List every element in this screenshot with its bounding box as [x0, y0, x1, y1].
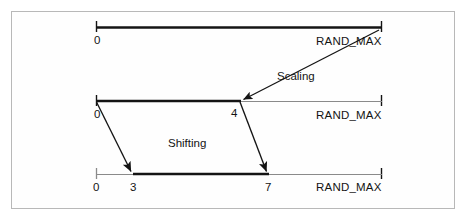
shifting-label: Shifting	[168, 137, 206, 149]
bottom-axis-mid-label-right: 7	[265, 181, 271, 193]
middle-axis-group	[96, 95, 382, 106]
bottom-axis-start-label: 0	[93, 181, 99, 193]
top-axis-start-label: 0	[94, 34, 100, 46]
middle-axis-start-label: 0	[94, 108, 100, 120]
figure-canvas: 0 RAND_MAX Scaling 0 4 RAND_MAX Shifting…	[0, 0, 471, 221]
top-axis-group	[96, 21, 382, 32]
middle-axis-mid-label: 4	[231, 107, 237, 119]
top-axis-end-label: RAND_MAX	[316, 35, 382, 47]
middle-axis-end-label: RAND_MAX	[316, 109, 382, 121]
shifting-arrow-left	[97, 102, 132, 172]
bottom-axis-mid-label-left: 3	[130, 181, 136, 193]
scaling-label: Scaling	[277, 70, 315, 82]
shifting-arrow-right	[240, 102, 267, 172]
bottom-axis-group	[96, 168, 382, 179]
bottom-axis-end-label: RAND_MAX	[316, 181, 382, 193]
